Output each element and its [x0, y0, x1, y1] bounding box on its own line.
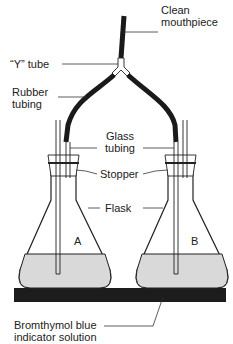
flask-b [136, 120, 228, 288]
label-indicator-solution: Bromthymol blue indicator solution [14, 319, 97, 343]
label-glass-tubing: Glass tubing [98, 130, 142, 154]
label-indicator-line2: indicator solution [14, 331, 97, 343]
label-rubber-tubing: Rubber tubing [12, 86, 48, 110]
label-stopper: Stopper [100, 168, 139, 180]
y-tube [112, 58, 130, 76]
label-rubber-line2: tubing [12, 98, 48, 110]
label-glass-line1: Glass [98, 130, 142, 142]
label-mouthpiece-line1: Clean [161, 4, 218, 16]
label-rubber-line1: Rubber [12, 86, 48, 98]
label-indicator-line1: Bromthymol blue [14, 319, 97, 331]
base-platform [14, 288, 226, 302]
label-y-tube: “Y” tube [10, 58, 49, 70]
flask-b-label: B [191, 235, 198, 247]
label-glass-line2: tubing [98, 142, 142, 154]
flask-a-label: A [74, 235, 81, 247]
label-mouthpiece-line2: mouthpiece [161, 16, 218, 28]
mouthpiece [121, 16, 124, 58]
label-mouthpiece: Clean mouthpiece [161, 4, 218, 28]
label-flask: Flask [105, 202, 131, 214]
